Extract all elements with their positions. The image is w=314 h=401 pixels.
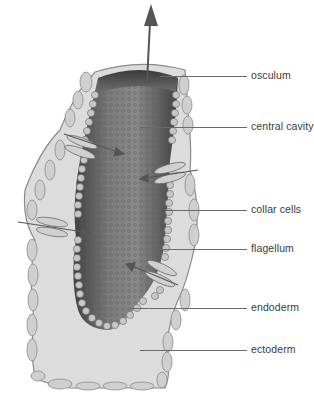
leader-flagellum <box>160 249 247 250</box>
label-ectoderm: ectoderm <box>251 343 296 355</box>
label-endoderm: endoderm <box>251 301 299 313</box>
leader-endoderm <box>130 308 247 309</box>
label-osculum: osculum <box>251 69 291 81</box>
label-flagellum: flagellum <box>251 242 294 254</box>
label-collar-cells: collar cells <box>251 203 301 215</box>
leader-central-cavity <box>140 127 247 128</box>
sponge-diagram <box>0 0 314 401</box>
label-central-cavity: central cavity <box>251 120 314 132</box>
leader-collar-cells <box>165 210 247 211</box>
leader-osculum <box>160 76 247 77</box>
leader-ectoderm <box>140 350 247 351</box>
